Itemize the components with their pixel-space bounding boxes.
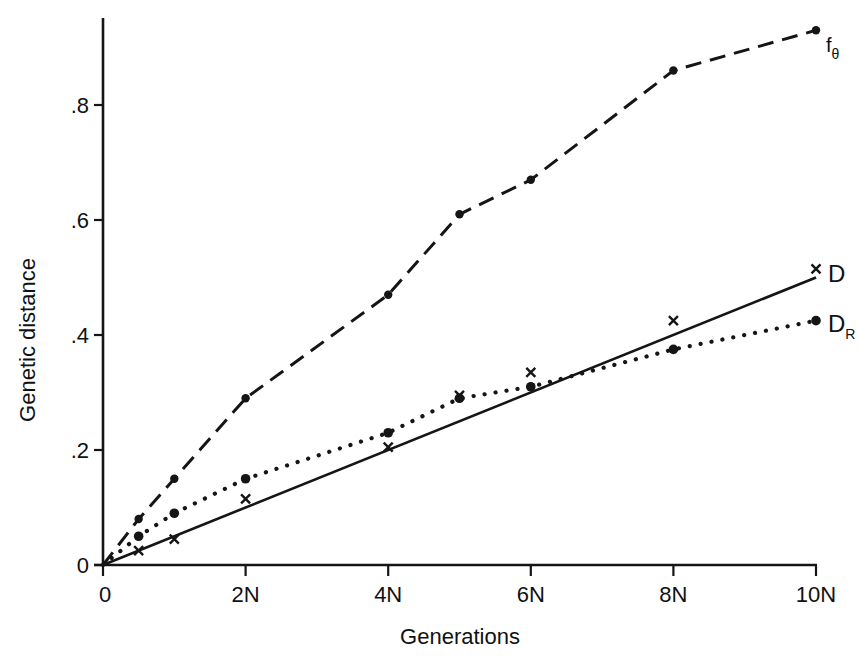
- series-line: [103, 278, 816, 566]
- genetic-distance-chart: 0.2.4.6.802N4N6N8N10N fθDDR Generations …: [0, 0, 859, 665]
- data-point-dot: [669, 66, 677, 74]
- data-point-dot: [455, 393, 465, 403]
- y-tick-label: .8: [71, 93, 89, 118]
- data-point-dot: [527, 176, 535, 184]
- data-point-dot: [669, 345, 679, 355]
- y-axis-title: Genetic distance: [15, 258, 40, 422]
- series-d: [103, 264, 821, 565]
- data-point-dot: [134, 531, 144, 541]
- data-point-dot: [811, 316, 821, 326]
- data-point-dot: [241, 474, 251, 484]
- data-point-cross: [812, 264, 821, 273]
- x-tick-label: 10N: [796, 582, 836, 607]
- x-tick-label: 6N: [517, 582, 545, 607]
- data-point-dot: [170, 508, 180, 518]
- x-tick-label: 0: [99, 582, 111, 607]
- data-point-cross: [241, 494, 250, 503]
- data-point-dot: [812, 26, 820, 34]
- x-axis-title: Generations: [400, 624, 520, 649]
- data-point-dot: [384, 291, 392, 299]
- y-tick-label: .2: [71, 438, 89, 463]
- series-line: [103, 30, 816, 565]
- data-point-dot: [241, 394, 249, 402]
- labels-group: fθDDR: [826, 34, 855, 342]
- series-label-2: DR: [828, 310, 855, 342]
- y-tick-label: .4: [71, 323, 89, 348]
- data-point-dot: [170, 475, 178, 483]
- x-tick-label: 8N: [659, 582, 687, 607]
- series-group: [103, 26, 821, 565]
- data-point-cross: [526, 368, 535, 377]
- y-tick-label: .6: [71, 208, 89, 233]
- series-dr: [103, 316, 821, 565]
- x-tick-label: 4N: [374, 582, 402, 607]
- data-point-dot: [455, 210, 463, 218]
- y-tick-label: 0: [77, 553, 89, 578]
- series-label-1: D: [828, 260, 845, 287]
- series-label-0: fθ: [826, 34, 840, 62]
- data-point-cross: [669, 316, 678, 325]
- x-tick-label: 2N: [232, 582, 260, 607]
- axes: 0.2.4.6.802N4N6N8N10N: [71, 18, 837, 607]
- data-point-dot: [383, 428, 393, 438]
- data-point-dot: [134, 515, 142, 523]
- series-f: [103, 26, 820, 565]
- series-line: [103, 321, 816, 565]
- data-point-dot: [526, 382, 536, 392]
